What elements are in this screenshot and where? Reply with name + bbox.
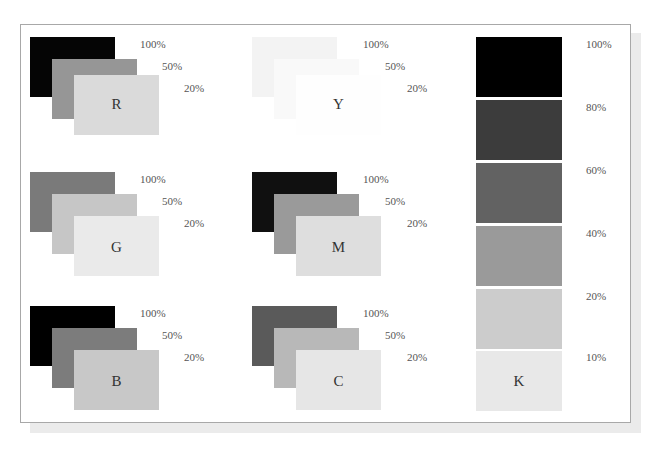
g-label-100: 100% [140,174,166,185]
r-letter: R [74,97,159,112]
b-label-20: 20% [184,352,204,363]
m-label-100: 100% [363,174,389,185]
k-label-10: 10% [586,352,606,363]
k-label-60: 60% [586,165,606,176]
b-letter: B [74,374,159,389]
r-label-50: 50% [162,61,182,72]
k-label-80: 80% [586,102,606,113]
k-swatch-100 [476,37,562,97]
g-label-20: 20% [184,218,204,229]
m-label-20: 20% [407,218,427,229]
k-label-100: 100% [586,39,612,50]
r-label-100: 100% [140,39,166,50]
y-label-100: 100% [363,39,389,50]
c-letter: C [296,374,381,389]
y-label-50: 50% [385,61,405,72]
m-letter: M [296,240,381,255]
g-letter: G [74,240,159,255]
b-label-50: 50% [162,330,182,341]
y-label-20: 20% [407,83,427,94]
r-label-20: 20% [184,83,204,94]
k-swatch-80 [476,100,562,160]
k-letter: K [476,374,562,389]
k-swatch-60 [476,163,562,223]
k-swatch-40 [476,226,562,286]
y-letter: Y [296,97,381,112]
k-swatch-20 [476,289,562,349]
c-label-20: 20% [407,352,427,363]
k-label-40: 40% [586,228,606,239]
c-label-100: 100% [363,308,389,319]
c-label-50: 50% [385,330,405,341]
k-label-20: 20% [586,291,606,302]
b-label-100: 100% [140,308,166,319]
m-label-50: 50% [385,196,405,207]
g-label-50: 50% [162,196,182,207]
